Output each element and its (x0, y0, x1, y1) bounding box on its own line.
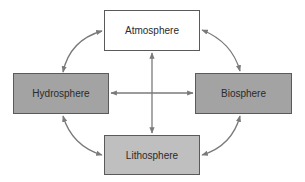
arrow-atmosphere-biosphere (202, 30, 240, 71)
node-label: Lithosphere (126, 150, 178, 161)
node-biosphere: Biosphere (195, 73, 292, 114)
arrow-biosphere-lithosphere (202, 116, 240, 155)
node-atmosphere: Atmosphere (104, 10, 200, 51)
arrow-hydrosphere-lithosphere (63, 116, 102, 155)
node-lithosphere: Lithosphere (104, 135, 200, 175)
node-hydrosphere: Hydrosphere (13, 73, 109, 114)
node-label: Biosphere (221, 88, 266, 99)
node-label: Hydrosphere (32, 88, 89, 99)
node-label: Atmosphere (125, 25, 179, 36)
arrow-atmosphere-hydrosphere (63, 31, 102, 72)
